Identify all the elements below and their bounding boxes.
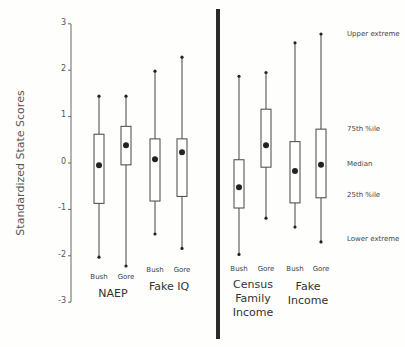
annotation-lower-extreme: Lower extreme xyxy=(347,235,399,243)
annotation-median: Median xyxy=(347,160,372,168)
box-fake-iq-gore xyxy=(177,56,187,250)
box-census-family-income-bush xyxy=(234,75,244,256)
box-naep-gore xyxy=(121,95,131,268)
annotation-upper-extreme: Upper extreme xyxy=(347,30,400,38)
candidate-label-gore: Gore xyxy=(167,266,197,274)
annotation-25th-percentile: 25th %ile xyxy=(347,191,380,199)
y-tick-label: 0 xyxy=(46,157,66,166)
y-axis-label: Standardized State Scores xyxy=(14,90,27,235)
y-tick-label: 3 xyxy=(46,18,66,27)
y-tick-label: 2 xyxy=(46,64,66,73)
candidate-label-bush: Bush xyxy=(224,265,254,273)
box-fake-income-bush xyxy=(290,41,300,228)
y-tick-label: 1 xyxy=(46,110,66,119)
boxes xyxy=(94,32,326,267)
candidate-label-bush: Bush xyxy=(84,273,114,281)
group-label-fake-income: Fake Income xyxy=(273,280,343,308)
boxplot-chart xyxy=(0,0,405,347)
box-fake-income-gore xyxy=(316,32,326,243)
group-label-fake-iq: Fake IQ xyxy=(134,280,204,294)
box-naep-bush xyxy=(94,95,104,259)
y-tick-label: -1 xyxy=(46,203,66,212)
y-tick-label: -3 xyxy=(46,296,66,305)
annotation-75th-percentile: 75th %ile xyxy=(347,125,380,133)
box-fake-iq-bush xyxy=(150,70,160,236)
candidate-label-bush: Bush xyxy=(140,266,170,274)
candidate-label-gore: Gore xyxy=(306,265,336,273)
candidate-label-gore: Gore xyxy=(251,265,281,273)
y-tick-label: -2 xyxy=(46,250,66,259)
box-census-family-income-gore xyxy=(261,71,271,220)
